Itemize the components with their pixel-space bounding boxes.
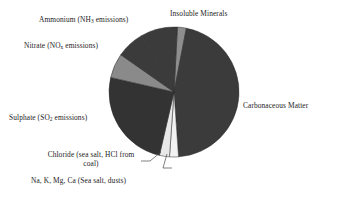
pie-slice-carbonaceous-matter[interactable] [174, 28, 239, 157]
pie-chart-figure: Insoluble Minerals Carbonaceous Matter A… [0, 0, 337, 200]
sulphate-label-suffix: emissions) [53, 113, 88, 122]
slice-label-carbonaceous-matter: Carbonaceous Matter [243, 101, 308, 110]
nitrate-label-prefix: Nitrate (NO [24, 41, 61, 50]
slice-label-sulphate: Sulphate (SO2 emissions) [9, 113, 87, 124]
slice-label-chloride: Chloride (sea salt, HCl from coal) [41, 150, 141, 168]
ammonium-label-suffix: emissions) [94, 15, 129, 24]
ammonium-label-prefix: Ammonium (NH [39, 15, 91, 24]
nitrate-label-suffix: emissions) [63, 41, 98, 50]
pie-slice-group [109, 27, 239, 157]
pie-chart-canvas [0, 0, 337, 200]
slice-label-nitrate: Nitrate (NOx emissions) [24, 41, 98, 52]
slice-label-ammonium: Ammonium (NH3 emissions) [39, 15, 128, 26]
slice-label-insoluble-minerals: Insoluble Minerals [170, 9, 227, 18]
sulphate-label-prefix: Sulphate (SO [9, 113, 50, 122]
slice-label-na-k-mg-ca: Na, K, Mg, Ca (Sea salt, dusts) [31, 176, 126, 185]
